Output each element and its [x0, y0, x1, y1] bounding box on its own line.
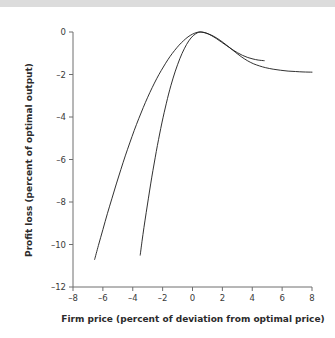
x-tick-label: 2 [220, 293, 225, 303]
x-tick-label: –2 [158, 293, 168, 303]
x-axis-title: Firm price (percent of deviation from op… [61, 314, 324, 324]
x-tick-label: –6 [98, 293, 108, 303]
y-axis: 0–2–4–6–8–10–12 [51, 27, 73, 292]
y-tick-label: –2 [56, 70, 66, 80]
x-tick-label: 8 [309, 293, 314, 303]
y-tick-label: –8 [56, 197, 66, 207]
x-tick-label: 0 [190, 293, 195, 303]
curve-flat-profit-curve [95, 32, 312, 259]
y-axis-title: Profit loss (percent of optimal output) [24, 63, 34, 257]
curve-steep-profit-curve [140, 32, 264, 255]
x-tick-label: –8 [68, 293, 78, 303]
x-tick-label: –4 [128, 293, 138, 303]
x-tick-label: 4 [250, 293, 255, 303]
y-tick-label: –10 [51, 240, 66, 250]
y-tick-label: –6 [56, 155, 66, 165]
x-tick-label: 6 [279, 293, 284, 303]
y-tick-label: –12 [51, 282, 66, 292]
chart-figure: 0–2–4–6–8–10–12 –8–6–4–202468 Firm price… [0, 0, 335, 338]
y-tick-label: –4 [56, 112, 66, 122]
y-tick-label: 0 [61, 27, 66, 37]
x-axis: –8–6–4–202468 [68, 287, 315, 303]
plot-area [95, 32, 312, 259]
